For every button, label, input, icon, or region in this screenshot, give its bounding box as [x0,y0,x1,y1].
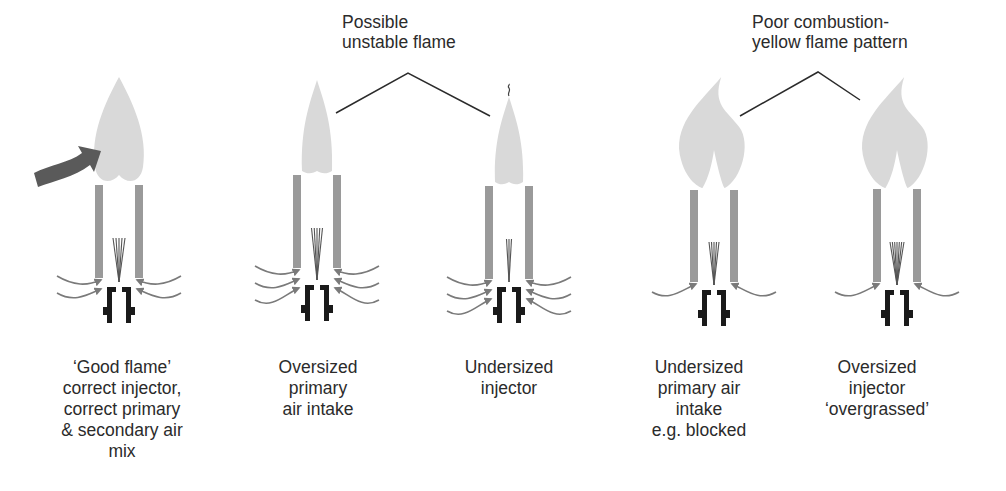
primary-air-arrow-left [255,266,299,274]
primary-air-arrow-left [255,288,299,303]
caption-oversized-primary-air: Oversized primary air intake [279,357,358,420]
burner-tube-left [873,189,881,282]
caption-good-flame: ‘Good flame’ correct injector, correct p… [61,357,183,462]
callout-line-2: unstable flame [342,32,456,52]
primary-air-arrow-right [137,289,181,298]
callout-unstable-flame: Possible unstable flame [342,12,456,52]
burner-tube-right [525,186,533,279]
caption-undersized-primary-air: Undersized primary air intake e.g. block… [652,357,746,441]
burner-tube-right [135,185,143,278]
primary-air-arrow-right [527,277,571,285]
callout-line-1: Possible [342,12,456,32]
primary-air-arrow-right [732,284,776,296]
burner-tube-left [690,190,698,282]
primary-air-arrow-left [652,284,696,296]
flame-shape [862,77,928,188]
callout-pointer-unstable [336,73,490,116]
primary-air-arrow-left [447,290,491,299]
caption-line: air intake [279,399,358,420]
primary-air-arrow-left [447,299,491,314]
secondary-air-arrow-icon [34,146,101,187]
primary-air-arrow-right [137,276,181,284]
burners-layer [34,77,959,326]
burner-tube-right [730,190,738,282]
burner-undersized-injector [447,84,571,323]
caption-line: injector [465,378,554,399]
callout-line-1: Poor combustion- [752,12,908,32]
caption-line: correct primary [61,399,183,420]
callout-pointer-poor-combustion [740,72,860,116]
caption-line: Oversized [279,357,358,378]
caption-line: Oversized [825,357,929,378]
injector-left-icon [698,290,711,326]
injector-right-icon [717,290,730,326]
caption-line: injector [825,378,929,399]
caption-undersized-injector: Undersized injector [465,357,554,399]
callout-line-2: yellow flame pattern [752,32,908,52]
caption-line: primary air [652,378,746,399]
burner-tube-right [913,189,921,282]
injector-left-icon [881,290,894,326]
primary-air-arrow-right [915,284,959,296]
caption-line: primary [279,378,358,399]
primary-air-arrow-right [527,290,571,299]
primary-air-arrow-left [447,277,491,285]
caption-line: & secondary air [61,420,183,441]
primary-air-arrow-right [335,288,379,303]
flame-shape [94,77,144,181]
caption-line: ‘overgrassed’ [825,399,929,420]
injector-right-icon [122,287,135,323]
injector-right-icon [900,290,913,326]
primary-air-arrow-left [255,279,299,288]
burner-good-flame [34,77,181,323]
burner-oversized-primary-air [255,80,379,321]
caption-line: ‘Good flame’ [61,357,183,378]
caption-line: mix [61,441,183,462]
burner-undersized-primary-air [652,77,776,326]
flame-shape [679,77,745,188]
primary-air-arrow-right [335,279,379,288]
burner-tube-right [333,175,341,268]
primary-air-arrow-right [527,299,571,314]
burner-tube-left [293,175,301,268]
caption-line: Undersized [652,357,746,378]
flame-shape [495,97,523,184]
smoke-wisp [508,84,509,96]
injector-right-icon [320,285,333,321]
injector-left-icon [493,287,506,323]
injector-right-icon [512,287,525,323]
caption-line: e.g. blocked [652,420,746,441]
primary-air-arrow-left [835,284,879,296]
burner-tube-left [485,186,493,279]
burner-tube-left [95,185,103,278]
primary-air-arrow-right [335,266,379,274]
caption-oversized-injector: Oversized injector ‘overgrassed’ [825,357,929,420]
burner-oversized-injector [835,77,959,326]
callout-lines-layer [336,72,860,116]
callout-poor-combustion: Poor combustion- yellow flame pattern [752,12,908,52]
primary-air-arrow-left [57,289,101,298]
caption-line: Undersized [465,357,554,378]
injector-left-icon [301,285,314,321]
caption-line: intake [652,399,746,420]
primary-air-arrow-left [57,276,101,284]
caption-line: correct injector, [61,378,183,399]
injector-left-icon [103,287,116,323]
flame-shape [302,80,332,173]
